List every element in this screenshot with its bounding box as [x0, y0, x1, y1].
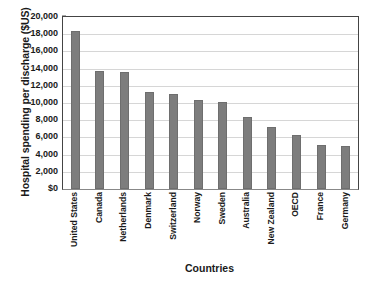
x-tick-label: Sweden	[217, 192, 227, 224]
x-tick-label: Australia	[241, 192, 251, 229]
bar[interactable]	[292, 135, 301, 189]
y-tick-label: 8,000	[35, 114, 58, 124]
y-tick-label: 4,000	[35, 149, 58, 159]
x-tick-label: Denmark	[143, 192, 153, 229]
x-tick-slot: New Zealand	[259, 190, 284, 256]
x-tick-slot: Australia	[234, 190, 259, 256]
x-tick-slot: France	[308, 190, 333, 256]
bar-slot	[186, 17, 211, 189]
bar-slot	[309, 17, 334, 189]
bar[interactable]	[218, 102, 227, 189]
bar[interactable]	[267, 127, 276, 189]
x-tick-label: France	[315, 192, 325, 220]
bar[interactable]	[243, 117, 252, 189]
bar-slot	[161, 17, 186, 189]
x-tick-slot: Denmark	[136, 190, 161, 256]
y-tick-label: 14,000	[30, 63, 58, 73]
bar[interactable]	[120, 72, 129, 189]
y-tick-label: 2,000	[35, 166, 58, 176]
bar[interactable]	[71, 31, 80, 189]
x-tick-label: Netherlands	[118, 192, 128, 242]
bar-slot	[284, 17, 309, 189]
bar-slot	[137, 17, 162, 189]
bar-slot	[260, 17, 285, 189]
bar-chart: Hospital spending per discharge ($US) $0…	[0, 0, 367, 290]
x-tick-slot: Sweden	[209, 190, 234, 256]
y-tick-label: 6,000	[35, 131, 58, 141]
x-tick-label: Canada	[94, 192, 104, 223]
x-tick-label: Switzerland	[168, 192, 178, 240]
bar[interactable]	[145, 92, 154, 189]
plot-area	[62, 16, 359, 190]
x-tick-slot: United States	[62, 190, 87, 256]
x-axis-tick-labels: United StatesCanadaNetherlandsDenmarkSwi…	[62, 190, 357, 256]
x-tick-slot: Netherlands	[111, 190, 136, 256]
bar[interactable]	[169, 94, 178, 189]
y-tick-label: 20,000	[30, 11, 58, 21]
y-tick-label: $0	[48, 183, 58, 193]
bar-slot	[88, 17, 113, 189]
bar[interactable]	[194, 100, 203, 189]
bar-slot	[112, 17, 137, 189]
y-tick-label: 10,000	[30, 97, 58, 107]
x-tick-slot: OECD	[283, 190, 308, 256]
y-axis-tick-labels: $02,0004,0006,0008,00010,00012,00014,000…	[22, 10, 62, 194]
x-tick-slot: Germany	[332, 190, 357, 256]
x-tick-slot: Switzerland	[160, 190, 185, 256]
y-tick-label: 16,000	[30, 45, 58, 55]
x-axis-title: Countries	[62, 262, 357, 274]
y-tick-label: 12,000	[30, 80, 58, 90]
x-tick-label: New Zealand	[266, 192, 276, 245]
x-tick-label: Germany	[340, 192, 350, 229]
x-tick-slot: Canada	[87, 190, 112, 256]
bar-slot	[235, 17, 260, 189]
bar-slot	[210, 17, 235, 189]
bar[interactable]	[317, 145, 326, 189]
bar-slot	[63, 17, 88, 189]
bar[interactable]	[95, 71, 104, 189]
y-tick-label: 18,000	[30, 28, 58, 38]
bar-series	[63, 17, 358, 189]
x-tick-label: Norway	[192, 192, 202, 223]
x-tick-label: OECD	[290, 192, 300, 217]
x-tick-label: United States	[69, 192, 79, 247]
bar[interactable]	[341, 146, 350, 189]
bar-slot	[333, 17, 358, 189]
x-tick-slot: Norway	[185, 190, 210, 256]
